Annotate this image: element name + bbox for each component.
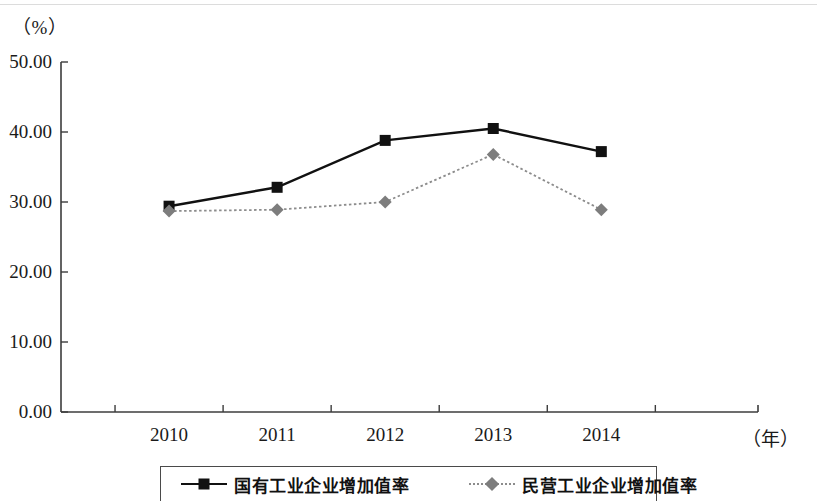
- diamond-glyph-icon: [485, 477, 499, 491]
- data-point-square: [596, 146, 607, 157]
- legend-item-2[interactable]: 民营工业企业增加值率: [469, 472, 697, 497]
- line-chart-svg: [0, 0, 817, 440]
- x-axis-tick-label: 2010: [150, 424, 188, 446]
- y-axis-tick-label: 10.00: [0, 331, 52, 353]
- data-point-square: [380, 135, 391, 146]
- data-point-square: [488, 123, 499, 134]
- legend-item-label: 国有工业企业增加值率: [234, 472, 409, 497]
- data-point-diamond: [271, 203, 284, 216]
- x-axis-tick-label: 2012: [366, 424, 404, 446]
- chart-figure: （%） 0.0010.0020.0030.0040.0050.00 201020…: [0, 0, 817, 501]
- y-axis-tick-label: 20.00: [0, 261, 52, 283]
- y-axis-tick-label: 30.00: [0, 191, 52, 213]
- plot-area: [0, 0, 817, 440]
- x-axis-tick-label: 2014: [582, 424, 620, 446]
- square-glyph-icon: [199, 479, 210, 490]
- diamond-marker-icon: [469, 477, 515, 491]
- square-marker-icon: [181, 477, 227, 491]
- data-point-diamond: [595, 203, 608, 216]
- data-point-diamond: [379, 196, 392, 209]
- legend-item-label: 民营工业企业增加值率: [522, 472, 697, 497]
- data-point-diamond: [487, 148, 500, 161]
- chart-legend: 国有工业企业增加值率民营工业企业增加值率: [160, 466, 657, 501]
- y-axis-tick-label: 0.00: [0, 401, 52, 423]
- legend-item-1[interactable]: 国有工业企业增加值率: [181, 472, 409, 497]
- data-point-square: [272, 182, 283, 193]
- x-axis-unit-label: （年）: [742, 424, 799, 451]
- y-axis-tick-label: 50.00: [0, 51, 52, 73]
- y-axis-tick-label: 40.00: [0, 121, 52, 143]
- x-axis-tick-label: 2011: [258, 424, 295, 446]
- x-axis-tick-label: 2013: [474, 424, 512, 446]
